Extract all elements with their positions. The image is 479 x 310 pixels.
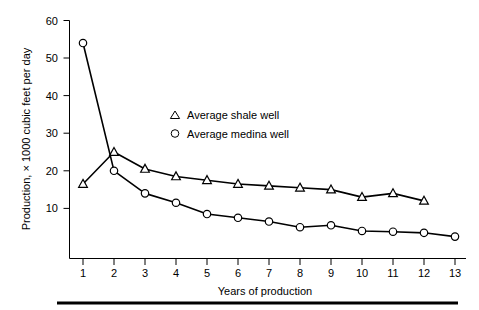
x-axis-tick-labels: 1 2 3 4 5 6 7 8 9 10 11 12 13 [80, 267, 461, 279]
y-tick-label: 10 [46, 202, 58, 214]
chart-plot-area: 60 50 40 30 20 10 1 2 3 [0, 0, 479, 310]
data-point-circle [389, 228, 396, 235]
data-point-circle [203, 210, 210, 217]
x-axis-title: Years of production [218, 285, 312, 297]
data-point-circle [79, 39, 86, 46]
x-tick-label: 13 [449, 267, 461, 279]
data-point-triangle [110, 147, 119, 155]
chart-legend: Average shale well Average medina well [170, 109, 289, 140]
data-point-circle [265, 218, 272, 225]
x-tick-label: 7 [266, 267, 272, 279]
data-point-circle [451, 233, 458, 240]
data-point-triangle [389, 189, 398, 197]
y-tick-label: 40 [46, 90, 58, 102]
x-tick-label: 9 [328, 267, 334, 279]
x-tick-label: 3 [142, 267, 148, 279]
data-point-circle [296, 223, 303, 230]
x-tick-label: 2 [111, 267, 117, 279]
data-point-circle [141, 190, 148, 197]
y-tick-label: 60 [46, 15, 58, 27]
x-tick-label: 5 [204, 267, 210, 279]
x-tick-label: 10 [356, 267, 368, 279]
series-layer [79, 39, 459, 240]
production-decline-chart-figure: 60 50 40 30 20 10 1 2 3 [0, 0, 479, 310]
data-point-circle [420, 229, 427, 236]
series-line [83, 152, 424, 201]
x-tick-label: 6 [235, 267, 241, 279]
x-tick-label: 12 [418, 267, 430, 279]
x-tick-label: 11 [387, 267, 398, 279]
series-medina [79, 39, 458, 240]
triangle-marker-icon [170, 111, 179, 119]
legend-label-medina: Average medina well [187, 128, 289, 140]
y-tick-label: 50 [46, 52, 58, 64]
x-tick-label: 8 [297, 267, 303, 279]
y-axis-tick-labels: 60 50 40 30 20 10 [46, 15, 58, 215]
x-tick-label: 4 [173, 267, 179, 279]
series-line [83, 43, 455, 237]
data-point-triangle [141, 164, 150, 172]
y-tick-label: 30 [46, 127, 58, 139]
y-axis-title: Production, × 1000 cubic feet per day [20, 47, 32, 230]
data-point-circle [172, 199, 179, 206]
x-axis-ticks [83, 259, 455, 266]
x-tick-label: 1 [80, 267, 86, 279]
legend-entry-shale: Average shale well [170, 109, 279, 121]
data-point-circle [234, 214, 241, 221]
legend-entry-medina: Average medina well [171, 128, 289, 140]
legend-label-shale: Average shale well [187, 109, 279, 121]
data-point-circle [327, 222, 334, 229]
circle-marker-icon [171, 130, 179, 138]
series-shale [79, 147, 429, 204]
data-point-circle [110, 167, 117, 174]
y-tick-label: 20 [46, 165, 58, 177]
y-axis-ticks [64, 21, 70, 209]
data-point-circle [358, 227, 365, 234]
